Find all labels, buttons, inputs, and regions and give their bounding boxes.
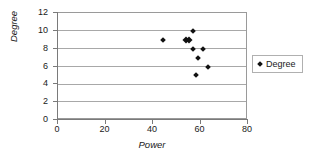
data-point xyxy=(195,55,201,61)
y-axis-tick-label: 2 xyxy=(43,97,48,106)
data-point xyxy=(200,46,206,52)
gridline xyxy=(58,48,246,49)
data-point xyxy=(191,46,197,52)
data-point xyxy=(191,28,197,34)
legend[interactable]: Degree xyxy=(252,55,303,73)
x-axis-tick-label: 0 xyxy=(42,125,72,134)
y-axis-tick xyxy=(53,12,57,13)
gridline xyxy=(58,84,246,85)
y-axis-title: Degree xyxy=(8,11,19,42)
gridline xyxy=(58,66,246,67)
y-axis-line xyxy=(57,12,58,120)
y-axis-tick xyxy=(53,30,57,31)
x-axis-tick-label: 40 xyxy=(137,125,167,134)
legend-diamond-marker-icon xyxy=(257,61,263,67)
y-axis-tick xyxy=(53,66,57,67)
y-axis-tick-label: 10 xyxy=(38,26,48,35)
scatter-chart: 024681012 020406080 Degree Power Degree xyxy=(0,0,321,157)
plot-area xyxy=(57,12,247,119)
gridline xyxy=(58,30,246,31)
data-point xyxy=(193,73,199,79)
legend-entry-label: Degree xyxy=(266,59,296,69)
x-axis-title: Power xyxy=(57,139,247,150)
x-axis-tick-label: 60 xyxy=(185,125,215,134)
y-axis-tick xyxy=(53,101,57,102)
y-axis-tick-label: 4 xyxy=(43,79,48,88)
y-axis-tick-label: 6 xyxy=(43,62,48,71)
gridline xyxy=(58,101,246,102)
data-point xyxy=(160,37,166,43)
data-point xyxy=(205,64,211,70)
y-axis-tick-label: 12 xyxy=(38,8,48,17)
y-axis-tick-label: 0 xyxy=(43,115,48,124)
x-axis-tick-label: 80 xyxy=(232,125,262,134)
y-axis-tick xyxy=(53,48,57,49)
y-axis-tick-label: 8 xyxy=(43,44,48,53)
y-axis-tick xyxy=(53,83,57,84)
x-axis-tick-label: 20 xyxy=(90,125,120,134)
